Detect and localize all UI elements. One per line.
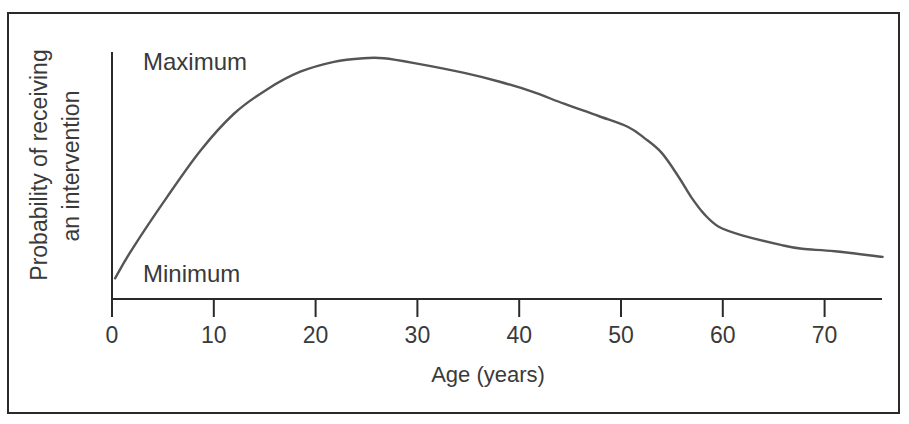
x-tick-label: 20: [303, 322, 329, 348]
x-axis-title: Age (years): [431, 362, 545, 387]
probability-curve: [115, 58, 883, 279]
minimum-label: Minimum: [143, 260, 240, 287]
x-tick-label: 50: [608, 322, 634, 348]
figure: Probability of receiving an intervention…: [0, 0, 909, 424]
maximum-label: Maximum: [143, 48, 247, 75]
x-tick-label: 0: [106, 322, 119, 348]
y-axis-label-line-2: an intervention: [58, 91, 84, 242]
x-tick-label: 30: [405, 322, 431, 348]
x-tick-label: 70: [812, 322, 838, 348]
y-axis-label-line-1: Probability of receiving: [26, 49, 52, 280]
x-tick-label: 40: [506, 322, 532, 348]
x-axis-ticks: 010203040506070: [106, 299, 838, 348]
x-tick-label: 60: [710, 322, 736, 348]
figure-border: [8, 13, 899, 413]
x-tick-label: 10: [201, 322, 227, 348]
